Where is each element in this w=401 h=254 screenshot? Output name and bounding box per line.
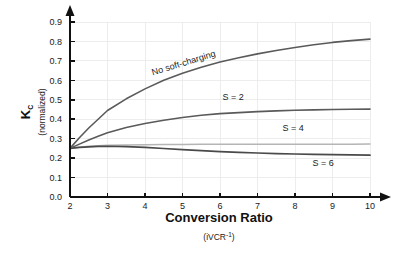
x-axis-title-group: Conversion Ratio (iVCR-1) xyxy=(165,210,273,242)
series-label-1: S = 2 xyxy=(222,92,243,102)
y-axis-title-subscript: C xyxy=(27,105,34,110)
y-tick-label: 0.2 xyxy=(49,153,62,163)
series-label-2: S = 4 xyxy=(282,123,303,133)
y-axis-arrowhead xyxy=(66,5,75,16)
x-axis-subtitle-close: ) xyxy=(232,232,235,242)
x-axis-subtitle-open: (iVCR xyxy=(203,232,226,242)
chart-canvas: 23456789100.00.10.20.30.40.50.60.70.80.9… xyxy=(0,0,401,254)
y-axis-subtitle: (normalized) xyxy=(37,88,47,135)
y-tick-label: 0.6 xyxy=(49,76,62,86)
x-tick-label: 3 xyxy=(105,201,110,211)
x-axis-arrowhead xyxy=(380,193,391,202)
x-axis-title: Conversion Ratio xyxy=(165,210,273,225)
y-tick-label: 0.8 xyxy=(49,37,62,47)
x-tick-label: 4 xyxy=(142,201,147,211)
axes xyxy=(66,5,392,202)
y-tick-label: 0.5 xyxy=(49,95,62,105)
series-label-3: S = 6 xyxy=(312,158,333,168)
y-tick-label: 0.9 xyxy=(49,17,62,27)
x-tick-label: 9 xyxy=(330,201,335,211)
x-tick-label: 10 xyxy=(365,201,375,211)
y-tick-label: 0.1 xyxy=(49,173,62,183)
x-axis-subtitle: (iVCR-1) xyxy=(203,231,234,242)
y-axis-title: KC xyxy=(18,105,34,119)
y-tick-label: 0.4 xyxy=(49,114,62,124)
series-annotations: No soft-chargingS = 2S = 4S = 6 xyxy=(150,48,333,168)
chart-figure: 23456789100.00.10.20.30.40.50.60.70.80.9… xyxy=(0,0,401,254)
y-tick-label: 0.3 xyxy=(49,134,62,144)
y-axis-title-group: KC xyxy=(18,105,34,119)
y-tick-label: 0.0 xyxy=(49,192,62,202)
x-tick-label: 2 xyxy=(67,201,72,211)
x-tick-label: 8 xyxy=(292,201,297,211)
y-tick-label: 0.7 xyxy=(49,56,62,66)
y-axis-subtitle-group: (normalized) xyxy=(37,88,47,135)
